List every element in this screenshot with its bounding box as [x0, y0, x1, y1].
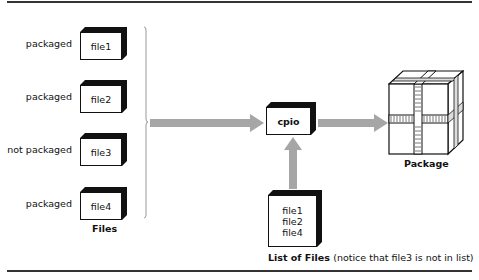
cpio-to-package-arrow [318, 114, 388, 132]
file3-name: file3 [80, 138, 122, 166]
file1-status-label: packaged [0, 38, 72, 49]
file1-box: file1 [80, 27, 127, 60]
file-list-caption: List of Files (notice that file3 is not … [268, 252, 474, 263]
file4-status-label: packaged [0, 198, 72, 209]
file-list-items: file1 file2 file4 [268, 195, 317, 247]
file-list-box: file1 file2 file4 [268, 190, 322, 247]
file4-name: file4 [80, 192, 122, 220]
file3-box: file3 [80, 133, 127, 166]
package-cube-icon [388, 70, 464, 156]
files-caption: Files [92, 223, 117, 234]
file4-box: file4 [80, 187, 127, 220]
cpio-box: cpio [266, 102, 316, 135]
list-to-cpio-arrow [284, 137, 302, 189]
file3-status-label: not packaged [0, 144, 72, 155]
file2-status-label: packaged [0, 91, 72, 102]
file-list-item: file4 [282, 227, 303, 238]
file1-name: file1 [80, 32, 122, 60]
bottom-rule [7, 270, 472, 272]
files-to-cpio-arrow [150, 114, 265, 132]
package-caption: Package [404, 158, 449, 169]
cpio-label: cpio [266, 107, 311, 135]
top-rule [7, 1, 472, 3]
file-list-caption-title: List of Files [268, 252, 330, 263]
file-list-item: file2 [282, 216, 303, 227]
file2-box: file2 [80, 80, 127, 113]
file-list-caption-note: (notice that file3 is not in list) [333, 252, 473, 263]
file2-name: file2 [80, 85, 122, 113]
file-list-item: file1 [282, 205, 303, 216]
